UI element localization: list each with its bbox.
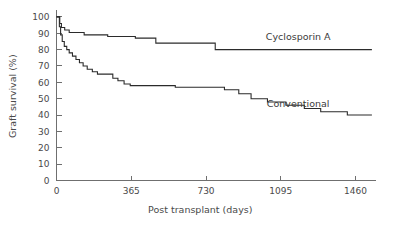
y-tick-label: 30	[38, 127, 50, 137]
series-label-conventional: Conventional	[267, 98, 330, 109]
y-tick-label: 70	[38, 61, 50, 71]
y-axis-ticks: 0102030405060708090100	[32, 12, 61, 186]
y-tick-label: 90	[38, 29, 50, 39]
y-tick-label: 40	[38, 110, 50, 120]
series-annotations: Cyclosporin AConventional	[266, 31, 331, 109]
y-axis-title: Graft survival (%)	[7, 54, 18, 138]
chart-canvas: 0102030405060708090100 036573010951460 C…	[0, 0, 394, 226]
y-tick-label: 50	[38, 94, 50, 104]
y-tick-label: 100	[32, 12, 49, 22]
y-tick-label: 60	[38, 78, 50, 88]
y-tick-label: 80	[38, 45, 50, 55]
y-tick-label: 0	[44, 176, 50, 186]
y-tick-label: 20	[38, 143, 50, 153]
x-tick-label: 730	[197, 186, 214, 196]
x-axis-ticks: 036573010951460	[54, 176, 368, 196]
series-label-cyclosporin-a: Cyclosporin A	[266, 31, 331, 42]
x-tick-label: 1460	[344, 186, 367, 196]
x-tick-label: 0	[54, 186, 60, 196]
x-axis-title: Post transplant (days)	[148, 204, 252, 215]
x-tick-label: 1095	[269, 186, 292, 196]
x-tick-label: 365	[123, 186, 140, 196]
y-tick-label: 10	[38, 159, 50, 169]
graft-survival-chart: 0102030405060708090100 036573010951460 C…	[0, 0, 394, 226]
